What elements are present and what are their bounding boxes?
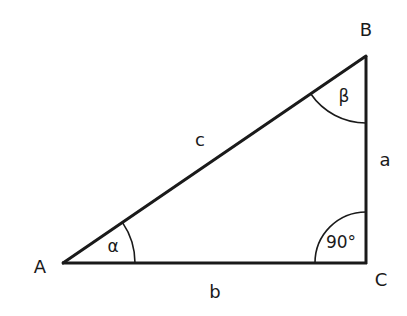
side-label-a: a: [379, 151, 390, 169]
angle-arc-alpha: [122, 222, 135, 263]
vertex-label-c: C: [375, 271, 388, 289]
triangle-diagram: [0, 0, 407, 316]
side-label-b: b: [209, 283, 220, 301]
vertex-label-a: A: [34, 258, 46, 276]
vertex-label-b: B: [360, 21, 372, 39]
side-label-c: c: [195, 131, 205, 149]
side-c: [63, 56, 366, 263]
angle-label-alpha: α: [107, 238, 118, 255]
angle-label-right: 90°: [326, 234, 356, 251]
angle-label-beta: β: [339, 88, 350, 105]
